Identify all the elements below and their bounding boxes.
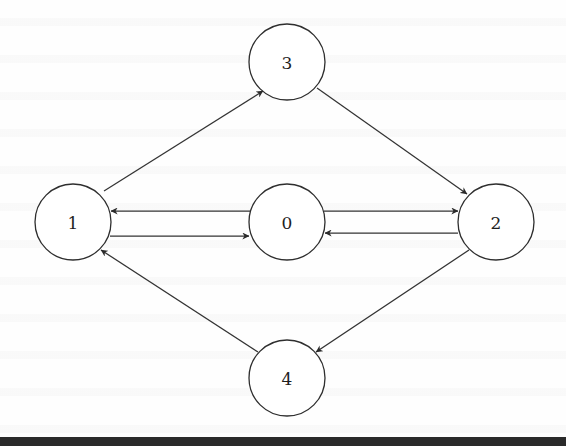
edge-4-to-1-arrow	[101, 250, 258, 352]
directed-graph: 01234	[0, 0, 566, 446]
node-1: 1	[35, 184, 111, 260]
node-4: 4	[249, 340, 325, 416]
node-3: 3	[249, 24, 325, 100]
node-2: 2	[458, 184, 534, 260]
node-0: 0	[249, 184, 325, 260]
nodes: 01234	[35, 24, 534, 416]
node-label: 4	[282, 369, 293, 389]
node-label: 0	[282, 213, 293, 233]
edge-3-to-2-arrow	[317, 88, 467, 194]
node-label: 2	[491, 213, 502, 233]
bottom-rule	[0, 437, 566, 446]
node-label: 1	[68, 213, 79, 233]
node-label: 3	[282, 53, 293, 73]
edge-1-to-3-arrow	[104, 91, 263, 191]
page: 01234	[0, 0, 566, 446]
edge-2-to-4-arrow	[316, 250, 469, 352]
